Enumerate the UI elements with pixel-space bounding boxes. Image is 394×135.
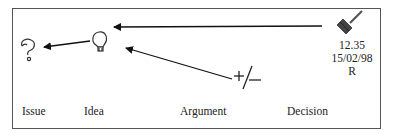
label-idea: Idea [84,105,104,117]
lightbulb-icon [93,32,107,51]
label-issue: Issue [22,105,46,117]
decision-time: 12.35 [320,39,384,52]
decision-initial: R [320,65,384,78]
gavel-icon [337,11,362,34]
question-mark-icon [22,39,35,60]
arrow-argument-to-idea [126,48,232,79]
decision-info: 12.35 15/02/98 R [320,39,384,78]
arrow-idea-to-issue [44,41,90,47]
arrow-decision-to-idea [114,26,322,27]
label-decision: Decision [287,105,328,117]
decision-date: 15/02/98 [320,52,384,65]
plus-minus-icon [234,66,261,89]
label-argument: Argument [180,105,226,117]
